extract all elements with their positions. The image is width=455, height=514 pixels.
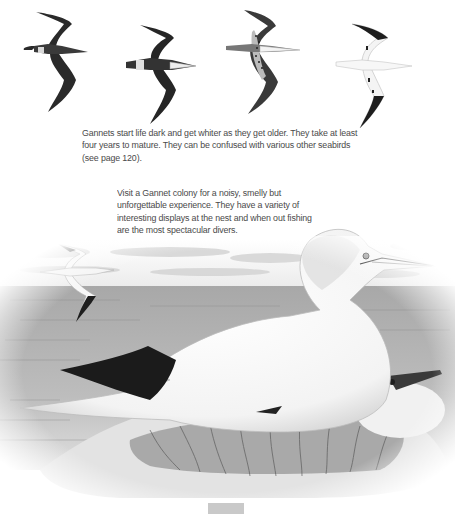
caption-line: four years to mature. They can be confus… <box>82 139 395 151</box>
caption-line: Gannets start life dark and get whiter a… <box>82 127 395 139</box>
immature-gannet-illustration <box>126 25 196 124</box>
caption-line: interesting displays at the nest and whe… <box>117 212 338 224</box>
plumage-caption: Gannets start life dark and get whiter a… <box>82 127 395 164</box>
flight-sequence <box>24 10 412 128</box>
speckled-gannet-illustration <box>226 10 300 114</box>
page-number-tab <box>208 503 244 514</box>
sub-adult-gannet-illustration <box>336 24 412 128</box>
caption-line: (see page 120). <box>82 152 395 164</box>
illustration-layer <box>0 0 455 514</box>
caption-line: unforgettable experience. They have a va… <box>117 199 338 211</box>
colony-scene <box>0 229 455 506</box>
caption-line: Visit a Gannet colony for a noisy, smell… <box>117 187 338 199</box>
caption-line: are the most spectacular divers. <box>117 224 338 236</box>
colony-caption: Visit a Gannet colony for a noisy, smell… <box>117 187 338 237</box>
juvenile-gannet-illustration <box>24 12 88 112</box>
